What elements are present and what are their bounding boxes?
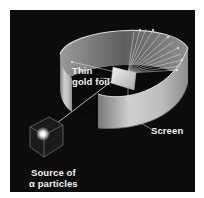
source-label-line2: α particles — [29, 179, 78, 190]
gold-foil-label-line1: Thin — [72, 66, 110, 77]
gold-foil-label-line2: gold foil — [72, 77, 110, 88]
diagram-panel: Thin gold foil Screen Source of α partic… — [10, 10, 195, 192]
screen-label: Screen — [151, 126, 183, 137]
source-label-line1: Source of — [29, 168, 78, 179]
screen-leader-line — [141, 123, 151, 129]
gold-foil-label: Thin gold foil — [72, 66, 110, 87]
source-label: Source of α particles — [29, 168, 78, 189]
alpha-source-cube — [30, 117, 63, 157]
experiment-illustration — [10, 10, 195, 192]
